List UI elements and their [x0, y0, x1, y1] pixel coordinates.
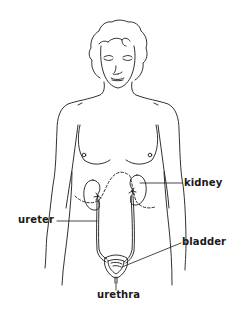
hair-outline [89, 20, 147, 80]
leader-lines [57, 183, 182, 290]
chest-outline [78, 125, 157, 164]
kidney-left [84, 180, 101, 210]
urinary-system-illustration [0, 0, 236, 316]
label-bladder: bladder [182, 237, 226, 247]
label-ureter: ureter [18, 215, 54, 225]
ureter-tubes [97, 196, 135, 263]
label-kidney: kidney [184, 178, 222, 188]
face-outline [101, 46, 135, 88]
label-urethra: urethra [97, 290, 140, 300]
